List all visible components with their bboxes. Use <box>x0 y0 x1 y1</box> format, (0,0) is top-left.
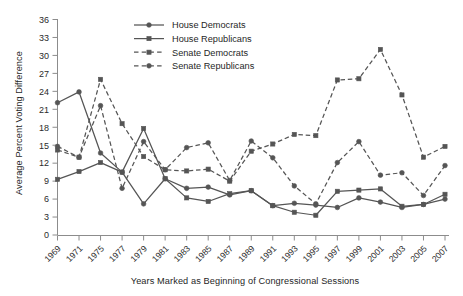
y-tick-label: 9 <box>44 176 49 186</box>
data-point-marker <box>314 213 318 217</box>
x-tick-label: 1997 <box>322 243 343 264</box>
legend-label: Senate Democrats <box>172 48 248 58</box>
x-tick-label: 2001 <box>365 243 386 264</box>
data-point-marker <box>357 196 362 201</box>
data-point-marker <box>147 63 152 68</box>
y-tick-label: 30 <box>39 51 49 61</box>
data-point-marker <box>335 189 339 193</box>
x-tick-label: 1981 <box>150 243 171 264</box>
data-point-marker <box>335 160 340 165</box>
data-point-marker <box>357 77 361 81</box>
data-point-marker <box>55 144 60 149</box>
x-tick-label: 1977 <box>107 243 128 264</box>
data-series-layer <box>55 47 447 217</box>
x-tick-label: 1975 <box>85 243 106 264</box>
data-point-marker <box>249 189 253 193</box>
x-tick-label: 1989 <box>236 243 257 264</box>
data-point-marker <box>142 154 146 158</box>
y-tick-label: 18 <box>39 123 49 133</box>
data-point-marker <box>206 140 211 145</box>
legend-label: Senate Republicans <box>172 61 255 71</box>
data-point-marker <box>163 177 167 181</box>
y-tick-label: 27 <box>39 69 49 79</box>
x-tick-label: 1983 <box>171 243 192 264</box>
data-point-marker <box>421 202 425 206</box>
data-point-marker <box>292 210 296 214</box>
data-point-marker <box>185 196 189 200</box>
data-point-marker <box>120 122 124 126</box>
data-point-marker <box>228 192 232 196</box>
data-point-marker <box>77 169 81 173</box>
chart-container: 0369121518212427303336 19691971197519771… <box>0 0 463 296</box>
data-point-marker <box>120 186 125 191</box>
x-axis-title: Years Marked as Beginning of Congression… <box>40 276 450 286</box>
data-point-marker <box>443 197 448 202</box>
data-point-marker <box>292 184 297 189</box>
data-point-marker <box>314 134 318 138</box>
x-tick-label: 2003 <box>387 243 408 264</box>
data-point-marker <box>378 187 382 191</box>
data-point-marker <box>141 202 146 207</box>
legend-item-2: House Republicans <box>134 34 252 44</box>
data-point-marker <box>421 155 425 159</box>
data-point-marker <box>147 50 151 54</box>
data-point-marker <box>185 169 189 173</box>
y-tick-label: 24 <box>39 87 49 97</box>
y-tick-label: 15 <box>39 141 49 151</box>
legend-label: House Republicans <box>172 34 252 44</box>
data-point-marker <box>163 167 168 172</box>
y-axis-ticks: 0369121518212427303336 <box>39 15 58 241</box>
data-point-marker <box>147 37 151 41</box>
data-point-marker <box>184 186 189 191</box>
data-point-marker <box>77 155 82 160</box>
legend-item-4: Senate Republicans <box>134 61 255 71</box>
data-point-marker <box>421 193 426 198</box>
data-point-marker <box>184 145 189 150</box>
x-tick-label: 1991 <box>258 243 279 264</box>
data-point-marker <box>378 47 382 51</box>
x-tick-label: 1979 <box>128 243 149 264</box>
data-point-marker <box>227 178 232 183</box>
data-point-marker <box>55 100 60 105</box>
data-point-marker <box>443 192 447 196</box>
legend-item-1: House Democrats <box>134 20 246 30</box>
data-point-marker <box>98 151 103 156</box>
data-point-marker <box>77 90 82 95</box>
data-point-marker <box>292 201 297 206</box>
x-tick-label: 2007 <box>430 243 451 264</box>
data-point-marker <box>271 142 275 146</box>
data-point-marker <box>271 204 275 208</box>
data-point-marker <box>147 23 152 28</box>
y-axis-title: Average Percent Voting Difference <box>14 18 24 228</box>
y-tick-label: 12 <box>39 158 49 168</box>
data-point-marker <box>206 185 211 190</box>
y-tick-label: 33 <box>39 33 49 43</box>
y-tick-label: 21 <box>39 105 49 115</box>
data-point-marker <box>378 173 383 178</box>
y-tick-label: 36 <box>39 15 49 25</box>
data-point-marker <box>120 170 124 174</box>
data-point-marker <box>142 126 146 130</box>
y-tick-label: 3 <box>44 212 49 222</box>
data-point-marker <box>378 200 383 205</box>
data-point-marker <box>357 188 361 192</box>
data-point-marker <box>141 139 146 144</box>
data-point-marker <box>270 155 275 160</box>
data-point-marker <box>443 163 448 168</box>
data-point-marker <box>313 202 318 207</box>
data-point-marker <box>292 132 296 136</box>
x-axis-ticks: 1969197119751977197919811983198519871989… <box>42 236 450 264</box>
y-tick-label: 6 <box>44 194 49 204</box>
chart-legend: House DemocratsHouse RepublicansSenate D… <box>134 20 255 71</box>
legend-item-3: Senate Democrats <box>134 48 248 58</box>
data-point-marker <box>98 103 103 108</box>
x-tick-label: 1971 <box>64 243 85 264</box>
data-point-marker <box>206 199 210 203</box>
x-tick-label: 1969 <box>42 243 63 264</box>
data-point-marker <box>400 93 404 97</box>
data-point-marker <box>206 167 210 171</box>
data-point-marker <box>400 204 404 208</box>
data-point-marker <box>98 160 102 164</box>
data-point-marker <box>357 139 362 144</box>
legend-label: House Democrats <box>172 20 246 30</box>
